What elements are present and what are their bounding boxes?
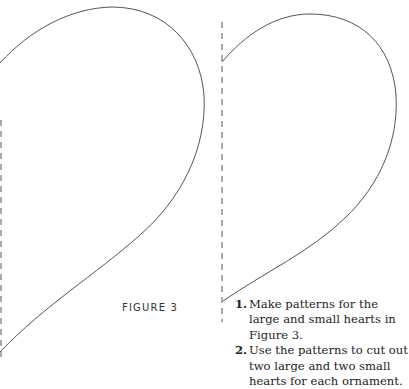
instructions-list: 1. Make patterns for the large and small… [235,297,409,389]
figure-label: FIGURE 3 [122,302,178,313]
step-number: 1. [235,297,247,312]
large-heart-outline [0,7,204,352]
step-text: Use the patterns to cut out two large an… [249,343,408,388]
small-heart-outline [222,14,396,301]
step-number: 2. [235,343,247,358]
instruction-step: 2. Use the patterns to cut out two large… [235,343,409,389]
step-text: Make patterns for the large and small he… [249,297,396,342]
instruction-step: 1. Make patterns for the large and small… [235,297,409,343]
